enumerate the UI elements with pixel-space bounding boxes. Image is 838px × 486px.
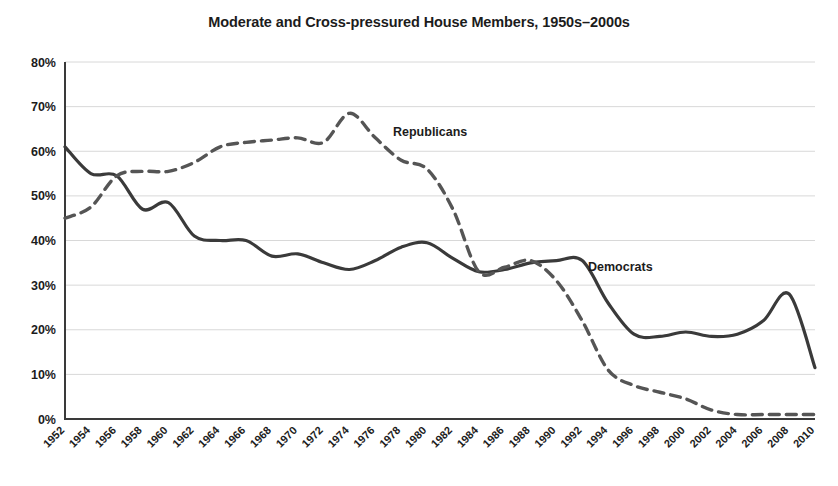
x-axis-tick-label: 2004: [713, 423, 739, 449]
gridlines-group: [65, 62, 815, 374]
y-axis-tick-label: 10%: [31, 368, 56, 382]
x-axis-tick-label: 1974: [325, 423, 351, 449]
y-axis-tick-label: 0%: [38, 413, 56, 427]
chart-container: Moderate and Cross-pressured House Membe…: [0, 0, 838, 486]
x-axis-tick-label: 1968: [248, 424, 274, 450]
series-line-democrats: [65, 147, 815, 368]
chart-plot-area: 0%10%20%30%40%50%60%70%80% 1952195419561…: [0, 0, 838, 486]
x-axis-tick-label: 2006: [739, 424, 765, 450]
x-axis-tick-label: 1962: [170, 424, 196, 450]
republicans-series-label: Republicans: [393, 125, 467, 139]
x-axis-tick-label: 1982: [429, 424, 455, 450]
x-axis-tick-label: 2000: [661, 424, 687, 450]
x-axis-tick-label: 1984: [454, 423, 480, 449]
x-axis-tick-label: 1992: [558, 424, 584, 450]
x-axis-tick-label: 1954: [66, 423, 92, 449]
x-axis-tick-label: 1976: [351, 424, 377, 450]
x-axis-tick-label: 1966: [222, 424, 248, 450]
y-axis-tick-label: 40%: [31, 234, 56, 248]
x-axis-tick-label: 1970: [273, 424, 299, 450]
series-annotations: RepublicansDemocrats: [393, 125, 653, 274]
x-axis-tick-label: 1956: [92, 424, 118, 450]
x-axis-tick-label: 2010: [791, 424, 817, 450]
x-axis-tick-label: 2002: [687, 424, 713, 450]
democrats-series-label: Democrats: [588, 260, 653, 274]
y-axis-tick-label: 50%: [31, 189, 56, 203]
y-axis-tick-label: 30%: [31, 279, 56, 293]
x-axis-tick-label: 1990: [532, 424, 558, 450]
x-axis-tick-label: 1952: [41, 424, 67, 450]
y-axis-tick-labels: 0%10%20%30%40%50%60%70%80%: [31, 56, 56, 427]
y-axis-tick-label: 60%: [31, 145, 56, 159]
x-axis-tick-label: 1998: [635, 424, 661, 450]
x-axis-tick-label: 1994: [584, 423, 610, 449]
y-axis-tick-label: 70%: [31, 100, 56, 114]
x-axis-tick-label: 1986: [480, 424, 506, 450]
x-axis-tick-label: 1958: [118, 424, 144, 450]
x-axis-tick-label: 1978: [377, 424, 403, 450]
x-axis-tick-label: 1960: [144, 424, 170, 450]
x-axis-tick-label: 1996: [610, 424, 636, 450]
x-axis-tick-label: 2008: [765, 424, 791, 450]
y-axis-tick-label: 20%: [31, 323, 56, 337]
x-axis-tick-label: 1980: [403, 424, 429, 450]
x-axis-tick-label: 1972: [299, 424, 325, 450]
series-line-republicans: [65, 113, 815, 415]
series-group: [65, 113, 815, 415]
y-axis-tick-label: 80%: [31, 56, 56, 70]
x-axis-tick-labels: 1952195419561958196019621964196619681970…: [41, 423, 817, 449]
x-axis-tick-label: 1964: [196, 423, 222, 449]
x-axis-tick-label: 1988: [506, 424, 532, 450]
